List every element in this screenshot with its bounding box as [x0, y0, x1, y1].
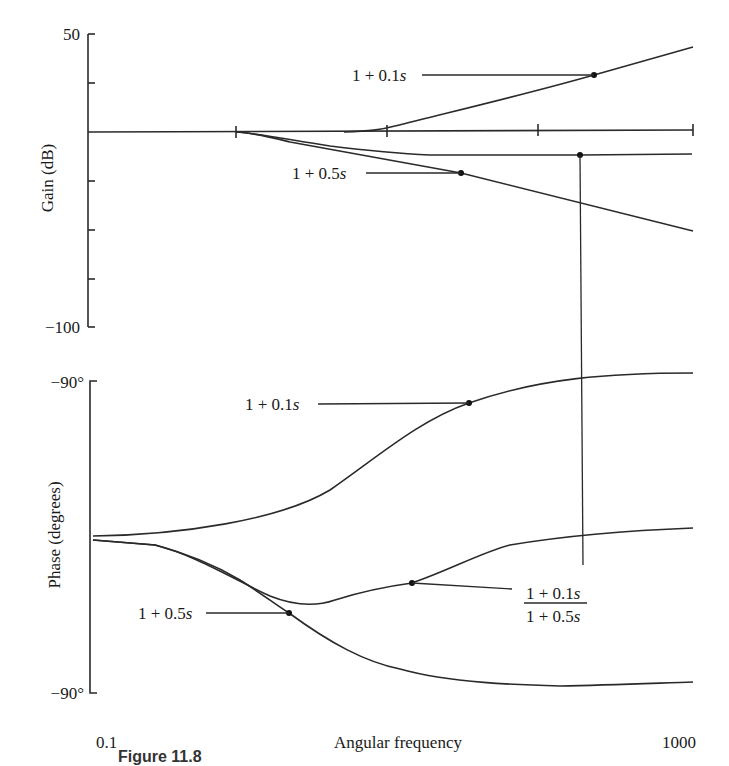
gain-y-ticks	[88, 34, 95, 327]
gain-ytick-bottom: −100	[45, 318, 80, 337]
gain-curve-lead	[344, 47, 693, 132]
phase-ytick-top: −90°	[51, 373, 84, 392]
xtick-right: 1000	[662, 733, 696, 752]
phase-ratio-leader	[412, 583, 512, 589]
gain-ylabel: Gain (dB)	[38, 144, 57, 212]
gain-zero-line	[88, 130, 693, 132]
phase-lead-label: 1 + 0.1s	[245, 395, 300, 414]
ratio-connector-line	[580, 155, 583, 565]
phase-curve-lead	[93, 373, 693, 536]
phase-ylabel: Phase (degrees)	[45, 481, 64, 588]
phase-curve-ratio	[93, 528, 693, 605]
phase-lag-label: 1 + 0.5s	[138, 604, 193, 623]
phase-ratio-label: 1 + 0.1s 1 + 0.5s	[524, 584, 587, 626]
phase-y-axis	[90, 381, 97, 693]
gain-ytick-top: 50	[63, 25, 80, 44]
gain-lead-label: 1 + 0.1s	[352, 66, 407, 85]
gain-lag-label: 1 + 0.5s	[292, 164, 347, 183]
gain-curve-ratio	[236, 132, 692, 155]
figure-caption: Figure 11.8	[118, 748, 202, 766]
phase-ytick-bottom: −90°	[51, 684, 84, 703]
ratio-denominator: 1 + 0.5s	[526, 607, 581, 626]
ratio-numerator: 1 + 0.1s	[526, 584, 581, 603]
phase-plot: −90° −90° Phase (degrees) 1 + 0.1s 1 + 0…	[45, 373, 693, 703]
xlabel: Angular frequency	[334, 733, 462, 752]
phase-lead-leader	[318, 403, 469, 404]
gain-plot: 50 −100 Gain (dB) 1 + 0.1s 1 + 0.5s	[38, 25, 693, 337]
xtick-left: 0.1	[96, 733, 117, 752]
